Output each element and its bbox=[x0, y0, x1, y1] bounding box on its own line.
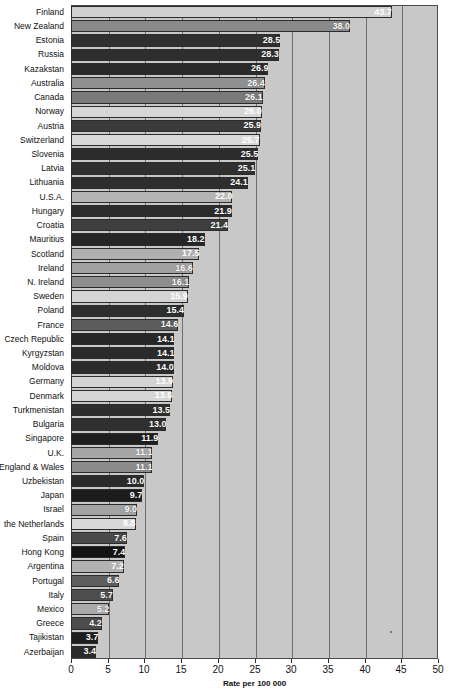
category-label: Turkmenistan bbox=[0, 403, 64, 417]
x-tick-mark bbox=[255, 659, 256, 663]
bar-value-label: 24.1 bbox=[71, 176, 251, 190]
bar-value-label: 5.2 bbox=[71, 602, 112, 616]
bar-value-label: 3.4 bbox=[71, 645, 99, 659]
bar-value-label: 16.1 bbox=[71, 275, 192, 289]
x-tick-mark bbox=[181, 659, 182, 663]
bar-row: 18.2 bbox=[71, 232, 438, 246]
x-tick-label: 10 bbox=[129, 664, 159, 675]
category-label: Israel bbox=[0, 503, 64, 517]
category-label: Czech Republic bbox=[0, 332, 64, 346]
bar-row: 26.0 bbox=[71, 105, 438, 119]
category-label: Sweden bbox=[0, 289, 64, 303]
bar-row: 24.1 bbox=[71, 176, 438, 190]
bar-row: 26.4 bbox=[71, 76, 438, 90]
bar-value-label: 10.0 bbox=[71, 474, 147, 488]
bar-value-label: 26.9 bbox=[71, 62, 271, 76]
category-label: Ireland bbox=[0, 261, 64, 275]
bar-value-label: 14.0 bbox=[71, 360, 177, 374]
bar-value-label: 13.5 bbox=[71, 403, 173, 417]
bar-value-label: 22.0 bbox=[71, 190, 235, 204]
x-tick-label: 15 bbox=[166, 664, 196, 675]
category-label: Russia bbox=[0, 48, 64, 62]
bar-value-label: 5.7 bbox=[71, 588, 116, 602]
bar-value-label: 16.6 bbox=[71, 261, 196, 275]
bar-row: 16.6 bbox=[71, 261, 438, 275]
bar-value-label: 8.8 bbox=[71, 517, 139, 531]
category-label: N. Ireland bbox=[0, 275, 64, 289]
bar-value-label: 3.7 bbox=[71, 631, 101, 645]
category-label: Mexico bbox=[0, 602, 64, 616]
category-label: Poland bbox=[0, 304, 64, 318]
bar-row: 3.7 bbox=[71, 631, 438, 645]
category-label: Japan bbox=[0, 488, 64, 502]
category-label: Slovenia bbox=[0, 147, 64, 161]
x-tick-label: 50 bbox=[423, 664, 452, 675]
category-label: Portugal bbox=[0, 574, 64, 588]
category-label: the Netherlands bbox=[0, 517, 64, 531]
bar-row: 5.7 bbox=[71, 588, 438, 602]
x-tick-mark bbox=[144, 659, 145, 663]
bar-value-label: 21.9 bbox=[71, 204, 235, 218]
category-label: Latvia bbox=[0, 161, 64, 175]
bar-row: 9.7 bbox=[71, 488, 438, 502]
x-tick-mark bbox=[365, 659, 366, 663]
bar-row: 10.0 bbox=[71, 474, 438, 488]
bar-row: 7.2 bbox=[71, 559, 438, 573]
category-label: Canada bbox=[0, 90, 64, 104]
bar-value-label: 15.9 bbox=[71, 289, 191, 303]
bar-row: 7.6 bbox=[71, 531, 438, 545]
x-tick-label: 45 bbox=[386, 664, 416, 675]
bar-row: 9.0 bbox=[71, 503, 438, 517]
bar-value-label: 11.1 bbox=[71, 446, 155, 460]
category-label: U.K. bbox=[0, 446, 64, 460]
bar-value-label: 13.8 bbox=[71, 389, 175, 403]
bar-value-label: 11.9 bbox=[71, 432, 161, 446]
category-label: Hungary bbox=[0, 204, 64, 218]
bar-row: 11.1 bbox=[71, 446, 438, 460]
category-label: Austria bbox=[0, 119, 64, 133]
bar-value-label: 26.0 bbox=[71, 105, 265, 119]
bar-row: 15.9 bbox=[71, 289, 438, 303]
category-label: Norway bbox=[0, 105, 64, 119]
bar-value-label: 26.4 bbox=[71, 76, 268, 90]
bar-value-label: 7.4 bbox=[71, 545, 128, 559]
category-label: Finland bbox=[0, 5, 64, 19]
category-axis-labels: FinlandNew ZealandEstoniaRussiaKazakstan… bbox=[0, 5, 68, 659]
bar-value-label: 14.1 bbox=[71, 332, 177, 346]
bar-row: 28.5 bbox=[71, 33, 438, 47]
category-label: Mauritius bbox=[0, 232, 64, 246]
x-tick-mark bbox=[438, 659, 439, 663]
category-label: Kazakstan bbox=[0, 62, 64, 76]
bar-row: 26.1 bbox=[71, 90, 438, 104]
category-label: Argentina bbox=[0, 559, 64, 573]
bar-row: 14.1 bbox=[71, 332, 438, 346]
category-label: France bbox=[0, 318, 64, 332]
bar-row: 11.1 bbox=[71, 460, 438, 474]
bar-value-label: 43.7 bbox=[71, 5, 395, 19]
bar-row: 13.9 bbox=[71, 375, 438, 389]
bar-value-label: 25.7 bbox=[71, 133, 263, 147]
category-label: Croatia bbox=[0, 218, 64, 232]
bar-row: 17.5 bbox=[71, 247, 438, 261]
bar-row: 25.1 bbox=[71, 161, 438, 175]
bar-value-label: 13.0 bbox=[71, 417, 169, 431]
bar-value-label: 14.1 bbox=[71, 346, 177, 360]
bar-value-label: 28.3 bbox=[71, 48, 282, 62]
bar-row: 14.1 bbox=[71, 346, 438, 360]
bar-value-label: 28.5 bbox=[71, 33, 283, 47]
bar-row: 16.1 bbox=[71, 275, 438, 289]
bar-row: 25.7 bbox=[71, 133, 438, 147]
bar-value-label: 9.7 bbox=[71, 488, 145, 502]
x-tick-label: 20 bbox=[203, 664, 233, 675]
bar-row: 5.2 bbox=[71, 602, 438, 616]
x-tick-label: 25 bbox=[240, 664, 270, 675]
x-axis-title: Rate per 100 000 bbox=[71, 679, 438, 688]
category-label: Azerbaijan bbox=[0, 645, 64, 659]
bar-value-label: 25.5 bbox=[71, 147, 261, 161]
bar-value-label: 11.1 bbox=[71, 460, 155, 474]
category-label: Uzbekistan bbox=[0, 474, 64, 488]
x-tick-label: 5 bbox=[93, 664, 123, 675]
bar-row: 22.0 bbox=[71, 190, 438, 204]
category-label: Singapore bbox=[0, 432, 64, 446]
x-tick-label: 40 bbox=[350, 664, 380, 675]
